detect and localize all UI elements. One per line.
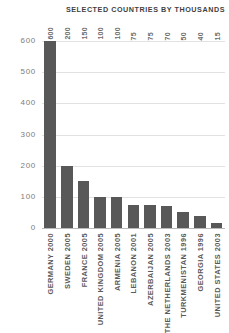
- bar[interactable]: [211, 223, 223, 228]
- bar[interactable]: [144, 205, 156, 228]
- bar-slot: [59, 41, 76, 228]
- x-axis-category: FRANCE 2005: [75, 233, 92, 331]
- bar-value-label-text: 75: [130, 32, 137, 40]
- bar-slot: [125, 41, 142, 228]
- bar-value-label: 600: [42, 14, 59, 40]
- x-axis-baseline: [42, 228, 225, 229]
- bar-slot: [109, 41, 126, 228]
- bar-value-label-text: 200: [63, 27, 70, 40]
- x-axis-category-text: THE NETHERLANDS 2003: [162, 233, 171, 333]
- bar[interactable]: [61, 166, 73, 228]
- x-axis-category: GEORGIA 1996: [192, 233, 209, 331]
- bar-value-label: 150: [75, 14, 92, 40]
- bar-value-label: 75: [125, 14, 142, 40]
- y-axis-tick-label: 200: [0, 161, 36, 170]
- x-axis-category-text: GERMANY 2000: [46, 233, 55, 295]
- bar-value-label-text: 70: [163, 32, 170, 40]
- x-axis-category-text: TURKMENISTAN 1996: [179, 233, 188, 318]
- bar-value-label: 50: [175, 14, 192, 40]
- bar-slot: [175, 41, 192, 228]
- y-axis-tick-label: 300: [0, 130, 36, 139]
- bar-slot: [92, 41, 109, 228]
- bar-value-label-text: 50: [180, 32, 187, 40]
- y-axis-tick-label: 600: [0, 36, 36, 45]
- bar-value-label-text: 75: [147, 32, 154, 40]
- bar-value-label-text: 100: [97, 27, 104, 40]
- x-axis-category: ARMENIA 2005: [109, 233, 126, 331]
- bar[interactable]: [161, 206, 173, 228]
- bar[interactable]: [194, 216, 206, 228]
- bar-value-label: 100: [109, 14, 126, 40]
- bar-value-label: 100: [92, 14, 109, 40]
- bar-value-label-text: 150: [80, 27, 87, 40]
- bar-series: [42, 41, 225, 228]
- x-axis-category-text: LEBANON 2001: [129, 233, 138, 293]
- x-axis-category-text: AZERBAIJAN 2005: [146, 233, 155, 306]
- bar-value-labels: 600200150100100757570504015: [42, 14, 225, 40]
- bar[interactable]: [94, 197, 106, 228]
- y-axis-tick-label: 100: [0, 192, 36, 201]
- x-axis-category-text: UNITED STATES 2003: [212, 233, 221, 317]
- x-axis-category-text: UNITED KINGDOM 2005: [96, 233, 105, 325]
- x-axis-category-text: ARMENIA 2005: [112, 233, 121, 291]
- bar-value-label-text: 100: [113, 27, 120, 40]
- x-axis-category: UNITED KINGDOM 2005: [92, 233, 109, 331]
- bar[interactable]: [177, 212, 189, 228]
- bar-slot: [158, 41, 175, 228]
- x-axis-category-labels: GERMANY 2000SWEDEN 2005FRANCE 2005UNITED…: [42, 233, 225, 331]
- bar[interactable]: [128, 205, 140, 228]
- x-axis-category: UNITED STATES 2003: [208, 233, 225, 331]
- bar-slot: [42, 41, 59, 228]
- bar-chart: SELECTED COUNTRIES BY THOUSANDS 60020015…: [0, 0, 229, 333]
- x-axis-category: TURKMENISTAN 1996: [175, 233, 192, 331]
- bar-value-label: 70: [158, 14, 175, 40]
- x-axis-category: SWEDEN 2005: [59, 233, 76, 331]
- x-axis-category-text: FRANCE 2005: [79, 233, 88, 287]
- x-axis-category: GERMANY 2000: [42, 233, 59, 331]
- x-axis-category-text: GEORGIA 1996: [196, 233, 205, 292]
- bar-value-label: 40: [192, 14, 209, 40]
- y-axis-tick-label: 0: [0, 223, 36, 232]
- bar[interactable]: [44, 41, 56, 228]
- x-axis-category: AZERBAIJAN 2005: [142, 233, 159, 331]
- x-axis-category: LEBANON 2001: [125, 233, 142, 331]
- bar-value-label: 200: [59, 14, 76, 40]
- x-axis-category-text: SWEDEN 2005: [62, 233, 71, 289]
- x-axis-category: THE NETHERLANDS 2003: [158, 233, 175, 331]
- bar-value-label-text: 40: [197, 32, 204, 40]
- bar-value-label: 75: [142, 14, 159, 40]
- bar-slot: [192, 41, 209, 228]
- bar-value-label-text: 600: [47, 27, 54, 40]
- bar-slot: [142, 41, 159, 228]
- bar-slot: [208, 41, 225, 228]
- bar[interactable]: [78, 181, 90, 228]
- bar[interactable]: [111, 197, 123, 228]
- bar-value-label-text: 15: [213, 32, 220, 40]
- bar-slot: [75, 41, 92, 228]
- y-axis-tick-label: 500: [0, 67, 36, 76]
- bar-value-label: 15: [208, 14, 225, 40]
- chart-title: SELECTED COUNTRIES BY THOUSANDS: [66, 5, 225, 14]
- y-axis-tick-label: 400: [0, 98, 36, 107]
